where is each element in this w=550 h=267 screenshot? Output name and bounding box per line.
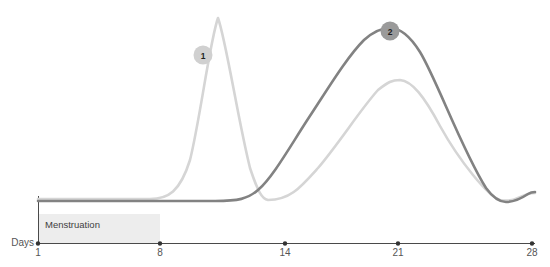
x-tick-8-label: 8 (157, 247, 163, 258)
x-tick-1-label: 1 (35, 247, 41, 258)
annotation-badge-1-label: 1 (201, 51, 206, 61)
x-tick-8-dot (158, 241, 162, 245)
phase-band-label: Menstruation (45, 219, 100, 230)
x-tick-14-dot (283, 241, 287, 245)
annotation-badge-2[interactable]: 2 (381, 22, 400, 41)
series-line-light (38, 18, 535, 201)
chart-canvas: Menstruation 1 2 Days 1 (0, 0, 550, 267)
series-line-dark (38, 28, 535, 202)
hormone-cycle-chart: Menstruation 1 2 Days 1 (0, 0, 550, 267)
x-tick-28-label: 28 (526, 247, 538, 258)
annotation-badge-1[interactable]: 1 (194, 46, 213, 65)
x-tick-28-dot (530, 241, 534, 245)
x-tick-14-label: 14 (279, 247, 291, 258)
x-tick-21-label: 21 (392, 247, 404, 258)
x-axis-title: Days (11, 237, 34, 248)
annotation-badge-2-label: 2 (388, 27, 393, 37)
x-tick-21-dot (396, 241, 400, 245)
x-tick-1-dot (36, 241, 40, 245)
phase-band-menstruation: Menstruation (38, 214, 160, 243)
